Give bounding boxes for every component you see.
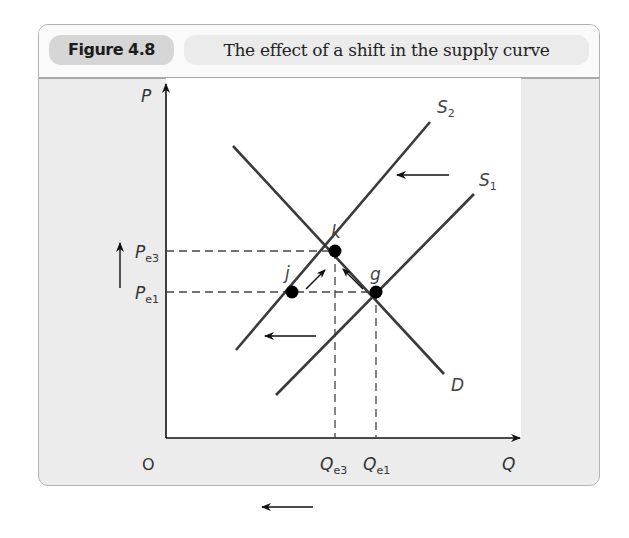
label-g: g (370, 264, 381, 284)
point-j (286, 286, 299, 299)
label-qe1: Qe1 (363, 454, 390, 477)
label-pe1: Pe1 (135, 283, 159, 306)
label-j: j (283, 263, 290, 283)
label-k: k (331, 222, 342, 242)
label-d: D (451, 375, 464, 395)
point-k (329, 245, 342, 258)
label-qe3: Qe3 (320, 454, 347, 477)
supply-shift-diagram: k j g S2 S1 D P Q O Pe3 Pe1 Qe3 Qe1 (0, 0, 629, 538)
point-g (370, 286, 383, 299)
y-axis-label: P (141, 86, 152, 106)
x-axis-label: Q (502, 454, 515, 474)
label-pe3: Pe3 (135, 242, 159, 265)
plot-area (166, 78, 521, 438)
origin-label: O (142, 455, 155, 474)
